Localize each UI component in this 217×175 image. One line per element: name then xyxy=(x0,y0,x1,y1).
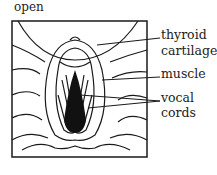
label-thyroid: thyroid xyxy=(161,27,207,42)
label-cartilage: cartilage xyxy=(161,43,217,58)
label-muscle: muscle xyxy=(161,66,206,81)
label-cords: cords xyxy=(161,105,196,120)
label-vocal: vocal xyxy=(161,90,194,105)
